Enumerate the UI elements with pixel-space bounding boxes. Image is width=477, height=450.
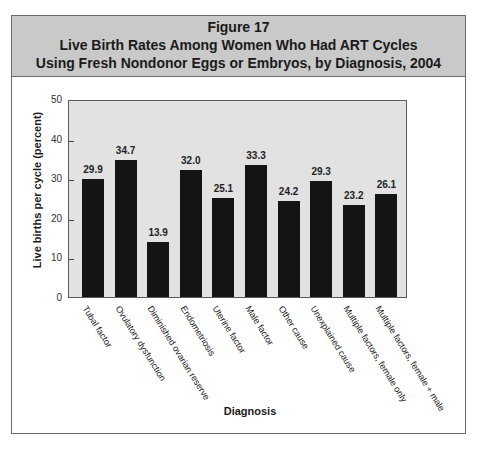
x-axis-title: Diagnosis xyxy=(224,405,277,417)
bar xyxy=(180,170,202,297)
bar xyxy=(310,181,332,297)
bar xyxy=(245,165,267,297)
bar xyxy=(82,179,104,297)
y-tick-label: 30 xyxy=(42,173,62,184)
figure-number: Figure 17 xyxy=(12,19,465,36)
y-tick-mark xyxy=(69,180,74,181)
y-tick-mark xyxy=(69,259,74,260)
y-tick-mark xyxy=(69,220,74,221)
bar-value-label: 29.3 xyxy=(301,166,341,177)
bar-value-label: 25.1 xyxy=(203,183,243,194)
bar-value-label: 23.2 xyxy=(334,190,374,201)
bar-value-label: 32.0 xyxy=(171,155,211,166)
y-tick-label: 10 xyxy=(42,252,62,263)
bar-value-label: 34.7 xyxy=(106,145,146,156)
y-tick-label: 40 xyxy=(42,134,62,145)
bar-value-label: 26.1 xyxy=(366,179,406,190)
bar-value-label: 33.3 xyxy=(236,150,276,161)
y-tick-label: 20 xyxy=(42,213,62,224)
bar-value-label: 24.2 xyxy=(269,186,309,197)
y-tick-label: 0 xyxy=(42,292,62,303)
bar xyxy=(212,198,234,297)
plot-area: 29.934.713.932.025.133.324.229.323.226.1 xyxy=(68,100,407,298)
bar xyxy=(115,160,137,297)
bar-value-label: 29.9 xyxy=(73,164,113,175)
figure-title-line1: Live Birth Rates Among Women Who Had ART… xyxy=(12,36,465,54)
y-tick-label: 50 xyxy=(42,94,62,105)
bar xyxy=(147,242,169,297)
bar xyxy=(278,201,300,297)
bar xyxy=(375,194,397,297)
y-tick-mark xyxy=(69,141,74,142)
bar-value-label: 13.9 xyxy=(138,227,178,238)
bar xyxy=(343,205,365,297)
figure-header: Figure 17 Live Birth Rates Among Women W… xyxy=(12,16,465,77)
figure-title-line2: Using Fresh Nondonor Eggs or Embryos, by… xyxy=(12,54,465,72)
